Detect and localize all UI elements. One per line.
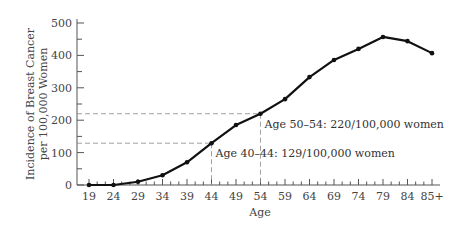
- x-tick-label: 39: [180, 190, 194, 203]
- x-tick-label: 29: [131, 190, 145, 203]
- line-chart: 0100200300400500 19242934394449545964697…: [0, 0, 463, 231]
- y-axis: 0100200300400500: [51, 17, 84, 192]
- data-point: [405, 39, 410, 44]
- y-tick-label: 0: [65, 179, 72, 192]
- data-point: [160, 173, 165, 178]
- y-tick-label: 300: [51, 82, 72, 95]
- annotations: Age 40–44: 129/100,000 womenAge 50–54: 2…: [215, 118, 444, 160]
- data-point: [185, 160, 190, 165]
- data-point: [307, 75, 312, 80]
- x-tick-label: 54: [254, 190, 268, 203]
- annotation-label: Age 50–54: 220/100,000 women: [264, 118, 444, 131]
- y-tick-label: 100: [51, 147, 72, 160]
- data-point: [283, 97, 288, 102]
- data-point: [258, 111, 263, 116]
- y-axis-title-line1: Incidence of Breast Cancer: [24, 27, 37, 180]
- data-point: [87, 183, 92, 188]
- x-tick-label: 64: [303, 190, 317, 203]
- data-point: [111, 183, 116, 188]
- x-tick-label: 74: [352, 190, 366, 203]
- x-tick-label: 19: [82, 190, 96, 203]
- x-tick-label: 34: [156, 190, 170, 203]
- y-tick-label: 400: [51, 49, 72, 62]
- data-point: [209, 141, 214, 146]
- x-tick-label: 69: [327, 190, 341, 203]
- x-tick-label: 24: [107, 190, 121, 203]
- data-point: [332, 58, 337, 63]
- y-tick-label: 500: [51, 17, 72, 30]
- y-tick-label: 200: [51, 114, 72, 127]
- data-point: [356, 47, 361, 52]
- annotation-label: Age 40–44: 129/100,000 women: [215, 147, 395, 160]
- data-point: [381, 35, 386, 40]
- data-point: [136, 179, 141, 184]
- y-axis-title-line2: per 100,000 Women: [37, 48, 50, 161]
- x-tick-label: 79: [376, 190, 390, 203]
- x-tick-label: 59: [278, 190, 292, 203]
- x-tick-label: 84: [401, 190, 415, 203]
- data-point: [430, 51, 435, 56]
- x-tick-label: 49: [229, 190, 243, 203]
- x-tick-label: 85+: [420, 190, 443, 203]
- data-point: [234, 123, 239, 128]
- x-tick-label: 44: [205, 190, 219, 203]
- x-axis-title: Age: [248, 206, 271, 219]
